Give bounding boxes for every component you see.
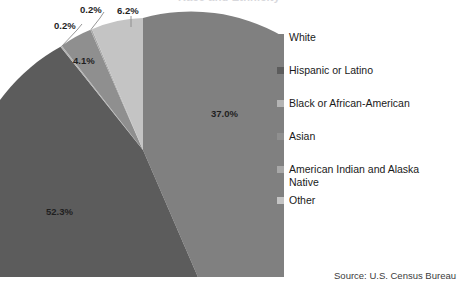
slice-value-american-indian-and-alaska-native: 0.2% <box>80 4 102 15</box>
legend-item-hispanic-or-latino[interactable]: Hispanic or Latino <box>277 64 458 77</box>
legend-swatch-icon <box>277 34 284 41</box>
slice-value-other: 6.2% <box>117 5 139 16</box>
legend-label: Black or African-American <box>289 97 410 110</box>
pie-plot-area: 37.0% 52.3% 0.2% 4.1% 0.2% 6.2% <box>0 0 284 277</box>
legend-item-american-indian-and-alaska-native[interactable]: American Indian and Alaska Native <box>277 163 458 188</box>
slice-value-asian: 4.1% <box>73 55 95 66</box>
legend-item-asian[interactable]: Asian <box>277 130 458 143</box>
legend-item-other[interactable]: Other <box>277 194 458 207</box>
legend-swatch-icon <box>277 166 284 173</box>
legend-item-white[interactable]: White <box>277 31 458 44</box>
slice-value-white: 37.0% <box>211 108 238 119</box>
legend-label: Hispanic or Latino <box>289 64 373 77</box>
legend-swatch-icon <box>277 197 284 204</box>
legend-swatch-icon <box>277 67 284 74</box>
legend-label: Other <box>289 194 315 207</box>
legend-swatch-icon <box>277 133 284 140</box>
legend-label: Asian <box>289 130 315 143</box>
legend-label: White <box>289 31 316 44</box>
slice-value-hispanic-or-latino: 52.3% <box>46 206 73 217</box>
pie-graphic <box>0 0 284 277</box>
legend-label: American Indian and Alaska Native <box>289 163 449 188</box>
slice-value-black-or-african-american: 0.2% <box>54 20 76 31</box>
legend: White Hispanic or Latino Black or Africa… <box>277 31 458 207</box>
legend-item-black-or-african-american[interactable]: Black or African-American <box>277 97 458 110</box>
source-note: Source: U.S. Census Bureau <box>334 270 456 281</box>
legend-swatch-icon <box>277 100 284 107</box>
